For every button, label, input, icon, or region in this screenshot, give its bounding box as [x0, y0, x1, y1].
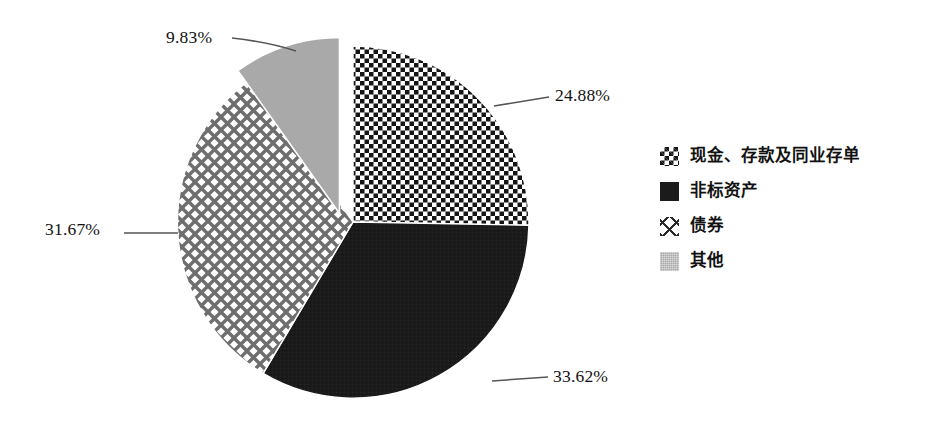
legend-label-cash: 现金、存款及同业存单	[690, 148, 860, 165]
slice-label-bond: 31.67%	[45, 219, 100, 240]
slice-label-cash: 24.88%	[555, 85, 610, 106]
legend-label-other: 其他	[690, 253, 724, 270]
solid-black-swatch-icon	[660, 182, 679, 201]
slice-label-nonstandard: 33.62%	[553, 366, 608, 387]
pie-slice-cash	[353, 46, 529, 225]
legend-label-bond: 债券	[690, 218, 724, 235]
legend-item-nonstandard: 非标资产	[660, 174, 922, 209]
light-gray-swatch-icon	[660, 252, 679, 271]
legend-item-cash: 现金、存款及同业存单	[660, 139, 922, 174]
leader-line-cash	[494, 97, 549, 106]
checkerboard-swatch-icon	[660, 147, 679, 166]
pie-chart-figure: 24.88% 33.62% 31.67% 9.83% 现金、存款及同业存单 非标…	[0, 0, 932, 427]
chart-legend: 现金、存款及同业存单 非标资产 债券 其他	[660, 139, 922, 279]
slice-label-other: 9.83%	[166, 27, 212, 48]
legend-label-nonstandard: 非标资产	[690, 183, 758, 200]
diamond-crosshatch-swatch-icon	[660, 217, 679, 236]
legend-item-bond: 债券	[660, 209, 922, 244]
legend-item-other: 其他	[660, 244, 922, 279]
leader-line-nonstandard	[492, 377, 548, 381]
